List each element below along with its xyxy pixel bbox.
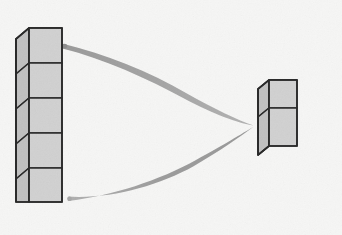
cube-right-face xyxy=(269,80,297,108)
block-towers-illustration xyxy=(0,0,342,235)
cube-right-face xyxy=(29,168,62,202)
cube-right-face xyxy=(29,98,62,133)
cube-right-face xyxy=(29,63,62,98)
right-tower xyxy=(258,80,297,155)
cube-right-face xyxy=(29,133,62,168)
left-tower-cube-1 xyxy=(16,168,62,202)
left-tower xyxy=(16,28,62,202)
sketch-canvas: Two block towers connected by a curved g… xyxy=(0,0,342,235)
cube-right-face xyxy=(269,108,297,146)
wedge-lower-start-cap xyxy=(67,197,72,201)
cube-right-face xyxy=(29,28,62,63)
